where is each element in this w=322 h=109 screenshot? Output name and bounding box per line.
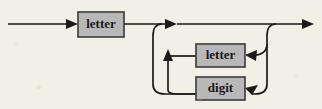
railroad-diagram: letter letter digit	[0, 0, 322, 109]
loop-letter-box-label: letter	[206, 47, 236, 62]
loop-return-arrow-icon	[163, 49, 173, 61]
letter-feed-arrow-icon	[245, 50, 257, 61]
first-letter-box: letter	[78, 12, 124, 37]
main-split-arrow-icon	[165, 19, 177, 29]
entry-arrow-icon	[66, 19, 78, 29]
loop-digit-box-label: digit	[208, 80, 234, 95]
exit-arrow-icon	[302, 19, 314, 29]
first-letter-box-label: letter	[86, 16, 116, 31]
loop-down-left-path	[153, 24, 196, 94]
loop-digit-box: digit	[196, 77, 245, 100]
loop-letter-box: letter	[196, 44, 245, 67]
return-base-line	[168, 90, 196, 94]
railroad-diagram-canvas: letter letter digit	[0, 0, 322, 109]
